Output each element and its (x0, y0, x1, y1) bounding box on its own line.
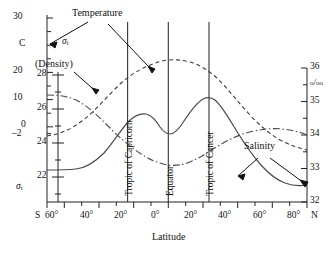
latitude-north-marker: N (311, 211, 318, 221)
salinity-tick-32: 32 (310, 196, 320, 206)
density-tick-22: 22 (37, 171, 47, 181)
salinity-axis-unit: o/oo (310, 78, 323, 88)
latitude-tick-n60: 60° (253, 211, 266, 221)
salinity-tick-34: 34 (310, 129, 320, 139)
latitude-tick-s20: 20° (114, 211, 127, 221)
latitude-tick-s40: 40° (80, 211, 93, 221)
temperature-axis-ticks (47, 18, 53, 134)
density-annotation-symbol: σt (62, 37, 69, 47)
temperature-tick-20: 20 (13, 66, 23, 76)
temperature-tick-30: 30 (13, 12, 23, 22)
figure-container: 30 C 20 10 0 –2 28 26 24 22 σt 36 o/oo 3… (0, 0, 333, 256)
latitude-axis-ticks (47, 202, 307, 208)
sigma-subscript: t (21, 184, 23, 191)
density-axis-symbol: σt (16, 182, 23, 192)
plot-frame (47, 15, 307, 202)
annotation-arrows (50, 22, 308, 187)
salinity-tick-36: 36 (310, 62, 320, 72)
latitude-tick-n80: 80° (287, 211, 300, 221)
sigma-subscript-2: t (67, 39, 69, 46)
reference-label-tropic-of-capricorn: Tropic of Capricorn (125, 120, 135, 196)
density-tick-24: 24 (37, 137, 47, 147)
temperature-annotation-label: Temperature (72, 8, 122, 18)
latitude-tick-s60: 60° (45, 211, 58, 221)
reference-label-equator: Equator (166, 166, 176, 196)
latitude-tick-0: 0° (151, 211, 160, 221)
temperature-axis-unit: C (19, 39, 25, 49)
reference-label-tropic-of-cancer: Tropic of Cancer (206, 131, 216, 196)
density-tick-28: 28 (37, 69, 47, 79)
salinity-tick-35: 35 (310, 96, 320, 106)
density-annotation-label: (Density) (35, 59, 73, 69)
salinity-tick-33: 33 (310, 163, 320, 173)
temperature-tick-10: 10 (13, 93, 23, 103)
salinity-annotation-label: Salinity (244, 141, 275, 151)
temperature-curve (47, 60, 307, 150)
latitude-tick-n20: 20° (184, 211, 197, 221)
latitude-tick-n40: 40° (218, 211, 231, 221)
density-tick-26: 26 (37, 103, 47, 113)
permille-denominator: oo (316, 79, 323, 87)
x-axis-title: Latitude (152, 232, 185, 242)
temperature-tick-minus2: –2 (12, 129, 22, 139)
latitude-south-marker: S (35, 211, 40, 221)
